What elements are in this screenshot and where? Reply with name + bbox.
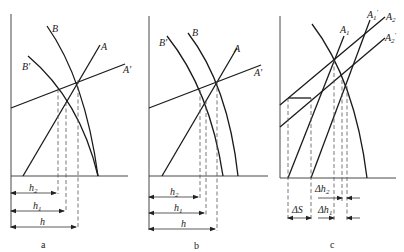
label-b-prime: B' <box>22 61 31 72</box>
caption-b: b <box>194 240 199 251</box>
panel-c: A1 A1′ A2 A2′ ΔS Δh2 Δh1 c <box>280 8 397 250</box>
label-a2-prime: A2′ <box>384 31 397 45</box>
label-delta-h2: Δh2 <box>314 183 330 196</box>
label-b-prime: B' <box>159 37 168 48</box>
label-a: A <box>233 43 241 54</box>
label-a2: A2 <box>385 11 396 24</box>
label-a1: A1 <box>339 24 350 37</box>
label-delta-h1: Δh1 <box>317 204 332 217</box>
panel-a: B B' A A' h2 h1 h a <box>11 14 132 250</box>
label-a1-prime: A1′ <box>366 8 379 22</box>
caption-c: c <box>330 239 335 250</box>
label-a: A <box>100 41 108 52</box>
label-h: h <box>40 216 45 227</box>
diagram-canvas: B B' A A' h2 h1 h a B B' A A' h2 h1 h <box>0 0 404 252</box>
label-delta-s: ΔS <box>291 204 303 215</box>
line-a2-prime <box>280 38 385 127</box>
label-b: B <box>52 23 58 34</box>
curve-b-prime <box>167 36 223 176</box>
line-a2 <box>280 17 385 105</box>
curve-b-prime <box>28 56 98 176</box>
panel-b: B B' A A' h2 h1 h b <box>149 16 268 251</box>
label-h: h <box>181 218 186 229</box>
caption-a: a <box>41 239 46 250</box>
label-a-prime: A' <box>122 64 132 75</box>
label-b: B <box>192 27 198 38</box>
curve-b <box>47 26 98 176</box>
line-a <box>23 45 100 176</box>
curve-b <box>188 33 238 176</box>
line-a1 <box>288 36 344 178</box>
label-a-prime: A' <box>253 67 263 78</box>
